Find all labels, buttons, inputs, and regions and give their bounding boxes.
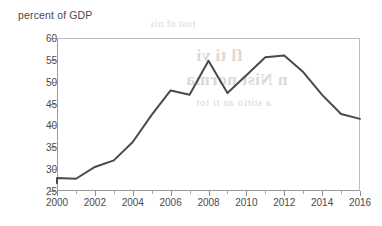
x-tick-mark — [284, 191, 285, 196]
x-tick-mark-minor — [76, 191, 77, 194]
x-tick-label: 2000 — [46, 197, 68, 208]
chart-figure: fl ti vi n Nist norma a stitio an ti tot… — [0, 0, 382, 226]
x-tick-mark — [322, 191, 323, 196]
x-tick-mark — [209, 191, 210, 196]
x-tick-label: 2008 — [197, 197, 219, 208]
x-tick-mark-minor — [341, 191, 342, 194]
x-tick-label: 2014 — [311, 197, 333, 208]
x-tick-mark — [95, 191, 96, 196]
x-tick-mark-minor — [190, 191, 191, 194]
x-tick-mark — [171, 191, 172, 196]
x-tick-mark-minor — [114, 191, 115, 194]
x-tick-label: 2006 — [160, 197, 182, 208]
x-tick-mark-minor — [303, 191, 304, 194]
x-axis: 200020022004200620082010201220142016 — [0, 0, 382, 226]
x-tick-mark — [133, 191, 134, 196]
x-tick-mark-minor — [265, 191, 266, 194]
x-tick-label: 2002 — [84, 197, 106, 208]
x-tick-mark-minor — [227, 191, 228, 194]
x-tick-label: 2004 — [122, 197, 144, 208]
x-tick-mark — [57, 191, 58, 196]
x-tick-label: 2016 — [349, 197, 371, 208]
x-tick-label: 2012 — [273, 197, 295, 208]
x-tick-mark — [246, 191, 247, 196]
x-tick-label: 2010 — [235, 197, 257, 208]
x-tick-mark — [360, 191, 361, 196]
x-tick-mark-minor — [152, 191, 153, 194]
